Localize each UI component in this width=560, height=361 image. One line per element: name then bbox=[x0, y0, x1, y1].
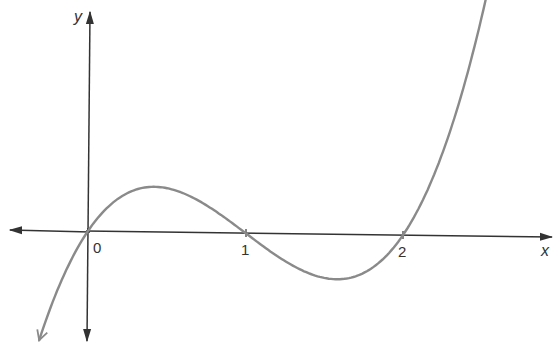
x-tick-label-0: 0 bbox=[93, 240, 101, 255]
cubic-curve bbox=[39, 0, 488, 340]
x-axis bbox=[10, 230, 552, 237]
y-axis-label: y bbox=[74, 9, 82, 25]
x-tick-label-2: 2 bbox=[398, 244, 406, 259]
x-tick-label-1: 1 bbox=[241, 242, 249, 257]
y-axis bbox=[87, 12, 90, 341]
x-axis-label: x bbox=[541, 243, 549, 259]
cubic-function-graph bbox=[0, 0, 560, 361]
